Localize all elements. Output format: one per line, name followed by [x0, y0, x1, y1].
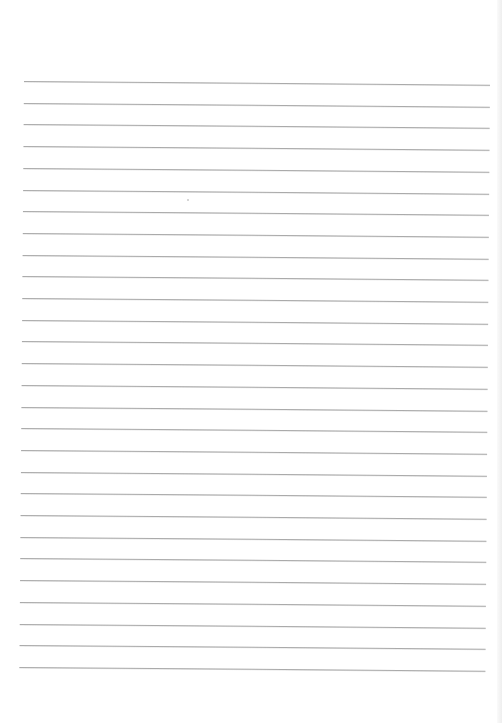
ruled-line [23, 233, 489, 238]
ruled-lines-area [19, 0, 491, 723]
ruled-line [20, 623, 486, 628]
ruled-line [20, 537, 486, 542]
ruled-line [22, 320, 488, 325]
ruled-line [21, 428, 487, 433]
ruled-line [22, 385, 488, 390]
ruled-line [24, 124, 490, 129]
ruled-line [20, 580, 486, 585]
ruled-line [21, 406, 487, 411]
ruled-line [22, 298, 488, 303]
ruled-line [24, 103, 490, 108]
ruled-line [20, 645, 486, 650]
ruled-line [21, 493, 487, 498]
lined-paper-page [0, 0, 502, 723]
ruled-line [20, 602, 486, 607]
ruled-line [22, 276, 488, 281]
ruled-line [23, 146, 489, 151]
ruled-line [23, 189, 489, 194]
ruled-line [23, 211, 489, 216]
ruled-line [22, 341, 488, 346]
ruled-line [23, 168, 489, 173]
ruled-line [19, 667, 485, 672]
page-edge-shadow [497, 0, 502, 723]
ruled-line [23, 255, 489, 260]
ruled-line [21, 450, 487, 455]
paper-speck [187, 199, 189, 201]
ruled-line [22, 363, 488, 368]
ruled-line [21, 472, 487, 477]
ruled-line [24, 81, 490, 86]
ruled-line [20, 558, 486, 563]
ruled-line [21, 515, 487, 520]
